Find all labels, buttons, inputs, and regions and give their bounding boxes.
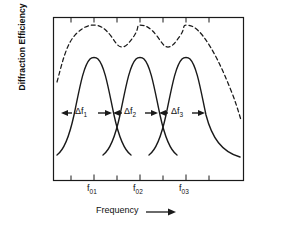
annotation-delta-f3: Δf3 <box>171 106 183 118</box>
tick-sub-f03: 03 <box>182 188 189 195</box>
tick-sub-f01: 01 <box>90 188 97 195</box>
x-tick-label-f02: f02 <box>133 183 143 195</box>
x-axis-label: Frequency <box>96 205 139 215</box>
y-axis-label: Diffraction Efficiency <box>17 0 27 117</box>
annotation-delta-f2: Δf2 <box>124 106 136 118</box>
delta-f2-sub: 2 <box>133 111 137 118</box>
delta-f3-base: Δf <box>171 106 180 116</box>
tick-sub-f02: 02 <box>136 188 143 195</box>
delta-f2-base: Δf <box>124 106 133 116</box>
plot-frame <box>54 18 244 181</box>
delta-f1-sub: 1 <box>84 111 88 118</box>
chart-svg <box>0 0 287 228</box>
chart-figure: Diffraction Efficiency Frequency f01 f02… <box>0 0 287 228</box>
delta-f3-sub: 3 <box>180 111 184 118</box>
x-tick-label-f03: f03 <box>179 183 189 195</box>
delta-f1-base: Δf <box>75 106 84 116</box>
annotation-delta-f1: Δf1 <box>75 106 87 118</box>
x-tick-label-f01: f01 <box>87 183 97 195</box>
frequency-direction-arrow <box>146 209 176 216</box>
